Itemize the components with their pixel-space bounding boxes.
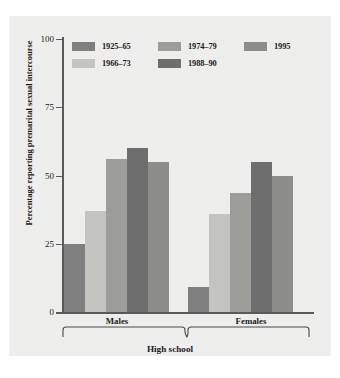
legend-label: 1974–79 bbox=[188, 42, 217, 51]
bar-females-1974-79 bbox=[230, 193, 251, 312]
chart-legend: 1925–651974–7919951966–731988–90 bbox=[72, 42, 308, 76]
figure-container: Percentage reporting premarital sexual i… bbox=[0, 0, 340, 378]
legend-swatch-icon bbox=[72, 59, 95, 68]
bar-females-1988-90 bbox=[251, 162, 272, 312]
bar-males-1974-79 bbox=[106, 159, 127, 312]
bar-males-1925-65 bbox=[64, 244, 85, 312]
legend-label: 1925–65 bbox=[102, 42, 131, 51]
legend-swatch-icon bbox=[158, 42, 181, 51]
legend-item-1966-73: 1966–73 bbox=[72, 59, 131, 68]
x-axis-line bbox=[56, 312, 314, 314]
bar-males-1988-90 bbox=[127, 148, 148, 312]
legend-label: 1988–90 bbox=[188, 59, 217, 68]
legend-item-1988-90: 1988–90 bbox=[158, 59, 217, 68]
legend-item-1995: 1995 bbox=[244, 42, 290, 51]
group-label-males: Males bbox=[62, 316, 172, 326]
legend-swatch-icon bbox=[72, 42, 95, 51]
y-axis-title: Percentage reporting premarital sexual i… bbox=[24, 8, 34, 258]
y-tick-label-75: 75 bbox=[0, 102, 54, 112]
bar-females-1995 bbox=[272, 176, 293, 313]
bar-males-1995 bbox=[148, 162, 169, 312]
legend-label: 1966–73 bbox=[102, 59, 131, 68]
legend-swatch-icon bbox=[244, 42, 267, 51]
bracket-label: High school bbox=[0, 344, 340, 354]
legend-label: 1995 bbox=[274, 42, 290, 51]
y-tick-label-50: 50 bbox=[0, 171, 54, 181]
legend-swatch-icon bbox=[158, 59, 181, 68]
y-tick-label-100: 100 bbox=[0, 34, 54, 44]
group-label-females: Females bbox=[196, 316, 306, 326]
y-tick-label-25: 25 bbox=[0, 239, 54, 249]
legend-item-1925-65: 1925–65 bbox=[72, 42, 131, 51]
bar-females-1925-65 bbox=[188, 287, 209, 312]
y-tick-label-0: 0 bbox=[0, 307, 54, 317]
bar-females-1966-73 bbox=[209, 214, 230, 312]
group-bracket-icon bbox=[62, 326, 310, 339]
bar-males-1966-73 bbox=[85, 211, 106, 312]
legend-item-1974-79: 1974–79 bbox=[158, 42, 217, 51]
plot-area bbox=[62, 39, 310, 312]
